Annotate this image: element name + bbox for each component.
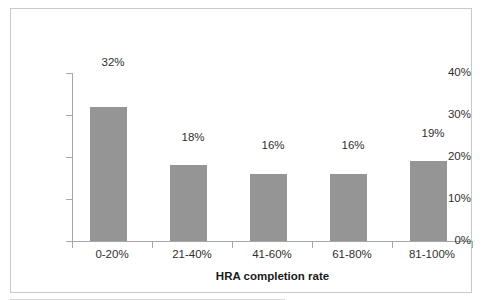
plot-area: 32% 18% 16% 16% 19%: [73, 73, 473, 241]
bar-0[interactable]: [90, 107, 127, 241]
y-tick-20: [66, 157, 72, 158]
chart-frame: 0% 10% 20% 30% 40% 32% 18%: [10, 8, 472, 293]
bar-4[interactable]: [410, 161, 447, 241]
x-tick-1: [152, 242, 153, 248]
x-axis-title: HRA completion rate: [72, 271, 473, 283]
y-tick-10: [66, 199, 72, 200]
bar-group-2[interactable]: 16%: [233, 73, 313, 241]
bar-group-4[interactable]: 19%: [393, 73, 473, 241]
bar-2[interactable]: [250, 174, 287, 241]
x-tick-0: [72, 242, 73, 248]
x-tick-2: [232, 242, 233, 248]
chart-screenshot: 0% 10% 20% 30% 40% 32% 18%: [0, 0, 487, 300]
bar-group-1[interactable]: 18%: [153, 73, 233, 241]
x-tick-4: [392, 242, 393, 248]
category-label-4: 81-100%: [392, 249, 472, 261]
category-label-0: 0-20%: [72, 249, 152, 261]
y-tick-30: [66, 115, 72, 116]
y-tick-40: [66, 73, 72, 74]
bar-value-0: 32%: [73, 57, 153, 69]
x-axis-line: [72, 241, 473, 242]
x-tick-5: [472, 242, 473, 248]
bar-value-2: 16%: [233, 140, 313, 152]
bar-value-4: 19%: [393, 128, 473, 140]
bar-3[interactable]: [330, 174, 367, 241]
category-label-3: 61-80%: [312, 249, 392, 261]
x-tick-3: [312, 242, 313, 248]
bar-value-1: 18%: [153, 132, 233, 144]
bar-value-3: 16%: [313, 140, 393, 152]
bar-group-3[interactable]: 16%: [313, 73, 393, 241]
category-label-1: 21-40%: [152, 249, 232, 261]
bar-1[interactable]: [170, 165, 207, 241]
bar-group-0[interactable]: 32%: [73, 73, 153, 241]
category-label-2: 41-60%: [232, 249, 312, 261]
